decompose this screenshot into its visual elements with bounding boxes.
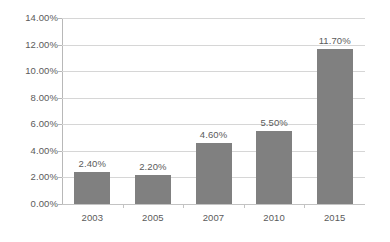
gridline — [62, 18, 365, 19]
bar — [135, 175, 171, 204]
x-tick-mark — [304, 204, 305, 208]
bar-value-label: 4.60% — [174, 129, 254, 140]
bar — [317, 49, 353, 204]
x-tick-mark — [244, 204, 245, 208]
y-tick-mark — [58, 124, 62, 125]
y-axis-tick-label: 6.00% — [0, 118, 58, 129]
y-tick-mark — [58, 18, 62, 19]
y-axis-tick-label: 12.00% — [0, 39, 58, 50]
y-tick-mark — [58, 204, 62, 205]
x-axis-tick-label: 2015 — [295, 212, 375, 223]
y-tick-mark — [58, 98, 62, 99]
y-axis-tick-label: 0.00% — [0, 198, 58, 209]
gridline — [62, 204, 365, 205]
bar-value-label: 2.20% — [113, 161, 193, 172]
y-axis-tick-label: 8.00% — [0, 92, 58, 103]
y-tick-mark — [58, 177, 62, 178]
bar — [256, 131, 292, 204]
bar-value-label: 5.50% — [234, 117, 314, 128]
y-tick-mark — [58, 151, 62, 152]
x-tick-mark — [183, 204, 184, 208]
y-tick-mark — [58, 71, 62, 72]
y-axis-tick-label: 14.00% — [0, 12, 58, 23]
y-axis-tick-label: 10.00% — [0, 65, 58, 76]
bar — [196, 143, 232, 204]
y-tick-mark — [58, 45, 62, 46]
bar-chart: 0.00%2.00%4.00%6.00%8.00%10.00%12.00%14.… — [0, 0, 390, 242]
y-axis-tick-label: 2.00% — [0, 171, 58, 182]
bar — [74, 172, 110, 204]
x-tick-mark — [123, 204, 124, 208]
y-axis-tick-label: 4.00% — [0, 145, 58, 156]
plot-area — [62, 18, 365, 204]
bar-value-label: 11.70% — [295, 35, 375, 46]
